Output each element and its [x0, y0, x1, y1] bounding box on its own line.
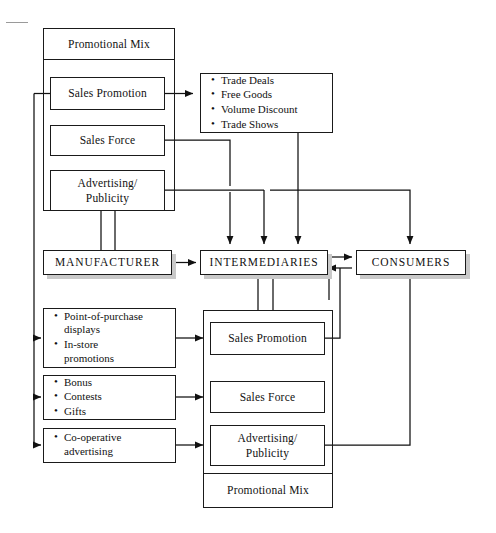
top-sales-promotion-box[interactable]: Sales Promotion — [50, 77, 165, 110]
top-promotional-mix-header: Promotional Mix — [43, 28, 175, 60]
trade-deals-list-box: Trade Deals Free Goods Volume Discount T… — [200, 73, 333, 133]
top-sales-force-box[interactable]: Sales Force — [50, 125, 165, 156]
point-of-purchase-bullets: Point-of-purchase displays In-store prom… — [53, 310, 143, 367]
list-item: Contests — [53, 390, 102, 404]
bottom-promotional-mix-footer: Promotional Mix — [203, 473, 333, 508]
bottom-sales-force-label: Sales Force — [240, 390, 296, 404]
list-item: Volume Discount — [210, 103, 298, 117]
list-item: Co-operative advertising — [53, 431, 121, 458]
intermediaries-label: INTERMEDIARIES — [209, 255, 318, 269]
trade-deals-bullets: Trade Deals Free Goods Volume Discount T… — [210, 74, 298, 133]
list-item: Trade Shows — [210, 118, 298, 132]
co-operative-advertising-list-box: Co-operative advertising — [43, 428, 176, 463]
diagram-canvas: Promotional Mix Sales Promotion Sales Fo… — [0, 0, 496, 533]
bonus-contests-gifts-bullets: Bonus Contests Gifts — [53, 376, 102, 420]
top-advertising-publicity-box[interactable]: Advertising/ Publicity — [50, 170, 165, 211]
bottom-promotional-mix-footer-label: Promotional Mix — [227, 483, 309, 497]
list-item: Trade Deals — [210, 74, 298, 88]
top-advertising-publicity-label: Advertising/ Publicity — [78, 176, 138, 204]
list-item: In-store promotions — [53, 338, 143, 365]
co-operative-advertising-bullets: Co-operative advertising — [53, 431, 121, 459]
bottom-advertising-publicity-label: Advertising/ Publicity — [238, 431, 298, 459]
bottom-sales-promotion-label: Sales Promotion — [228, 331, 307, 345]
bottom-advertising-publicity-box[interactable]: Advertising/ Publicity — [210, 425, 325, 466]
bottom-sales-promotion-box[interactable]: Sales Promotion — [210, 322, 325, 355]
consumers-box[interactable]: CONSUMERS — [356, 250, 466, 275]
manufacturer-label: MANUFACTURER — [55, 255, 160, 269]
top-promotional-mix-header-label: Promotional Mix — [68, 37, 150, 51]
bonus-contests-gifts-list-box: Bonus Contests Gifts — [43, 375, 176, 420]
top-sales-force-label: Sales Force — [80, 133, 136, 147]
point-of-purchase-list-box: Point-of-purchase displays In-store prom… — [43, 308, 176, 368]
list-item: Point-of-purchase displays — [53, 310, 143, 337]
manufacturer-box[interactable]: MANUFACTURER — [43, 250, 172, 275]
intermediaries-box[interactable]: INTERMEDIARIES — [200, 250, 328, 275]
list-item: Bonus — [53, 376, 102, 390]
top-sales-promotion-label: Sales Promotion — [68, 86, 147, 100]
list-item: Gifts — [53, 405, 102, 419]
consumers-label: CONSUMERS — [372, 255, 450, 269]
bottom-sales-force-box[interactable]: Sales Force — [210, 381, 325, 413]
list-item: Free Goods — [210, 88, 298, 102]
